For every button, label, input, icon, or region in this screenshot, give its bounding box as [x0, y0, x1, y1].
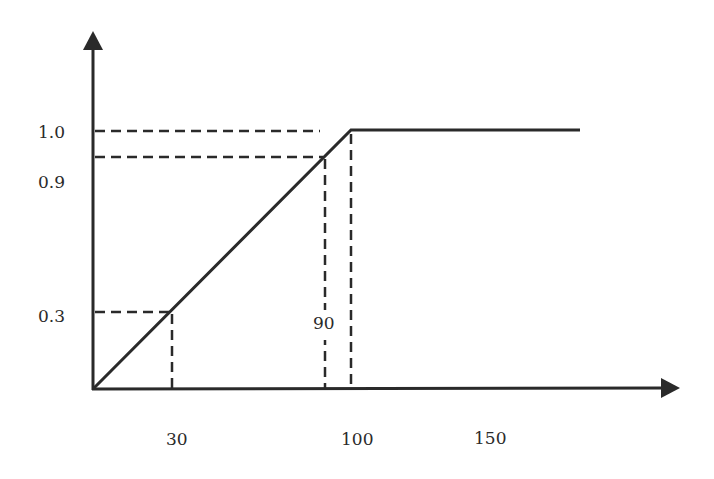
y-axis-arrow-icon — [83, 31, 103, 50]
y-tick-0-9: 0.9 — [38, 172, 65, 192]
y-tick-1-0: 1.0 — [38, 122, 65, 142]
annotation-90: 90 — [313, 313, 335, 333]
x-tick-30: 30 — [166, 429, 188, 449]
chart: 1.0 0.9 0.3 30 90 100 150 — [0, 0, 714, 479]
series-line — [93, 130, 580, 389]
axes — [92, 48, 664, 390]
x-axis — [92, 388, 664, 389]
x-tick-100: 100 — [341, 429, 373, 449]
x-tick-150: 150 — [474, 428, 506, 448]
y-tick-0-3: 0.3 — [38, 306, 65, 326]
x-axis-arrow-icon — [661, 378, 680, 398]
